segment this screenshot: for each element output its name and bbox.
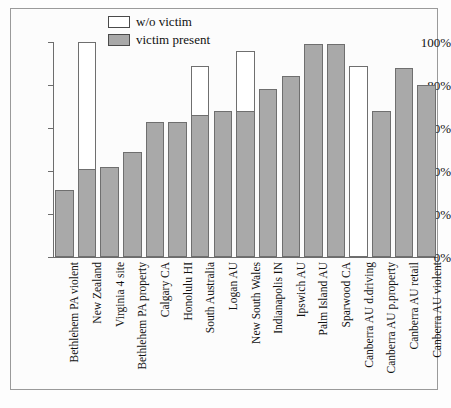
bar-group[interactable] xyxy=(236,42,255,257)
bar-segment-victim-present[interactable] xyxy=(123,152,142,257)
bar-group[interactable] xyxy=(55,42,74,257)
bar-group[interactable] xyxy=(417,42,436,257)
x-axis-label: Canberra AU p.property xyxy=(386,262,398,373)
bar-group[interactable] xyxy=(304,42,323,257)
y-axis-tick xyxy=(48,257,53,258)
x-axis-label: Palm Island AU xyxy=(318,262,330,335)
x-axis-label: New South Wales xyxy=(251,262,263,344)
bar-group[interactable] xyxy=(168,42,187,257)
legend-swatch-white-icon xyxy=(108,16,130,28)
bar-segment-victim-present[interactable] xyxy=(191,115,210,257)
bar-segment-victim-present[interactable] xyxy=(236,111,255,257)
bar-group[interactable] xyxy=(100,42,119,257)
x-axis-label: Canberra AU retail xyxy=(409,262,421,350)
x-axis-label: Bethlehem PA property xyxy=(137,262,149,370)
x-axis-label: Sparwood CA xyxy=(341,262,353,328)
bar-segment-victim-present[interactable] xyxy=(395,68,414,257)
x-axis-label: Canberra AU d.driving xyxy=(364,262,376,368)
x-axis-label: Bethlehem PA violent xyxy=(69,262,81,363)
bar-group[interactable] xyxy=(146,42,165,257)
x-axis-label: Honolulu HI xyxy=(183,262,195,320)
bar-group[interactable] xyxy=(214,42,233,257)
legend-item-w-o-victim: w/o victim xyxy=(108,14,258,29)
bar-segment-victim-present[interactable] xyxy=(372,111,391,257)
bar-segment-victim-present[interactable] xyxy=(100,167,119,257)
x-axis-label: Virginia 4 site xyxy=(115,262,127,327)
bar-segment-victim-present[interactable] xyxy=(304,44,323,257)
bar-segment-victim-present[interactable] xyxy=(282,76,301,257)
bar-segment-victim-present[interactable] xyxy=(259,89,278,257)
x-axis-label: Canberra AU violent xyxy=(432,262,444,358)
x-axis-label: New Zealand xyxy=(92,262,104,324)
bar-segment-victim-present[interactable] xyxy=(214,111,233,257)
legend-label-0: w/o victim xyxy=(136,15,192,28)
bar-segment-wo-victim[interactable] xyxy=(349,66,368,257)
x-axis-label: South Australia xyxy=(205,262,217,333)
bar-group[interactable] xyxy=(372,42,391,257)
bar-group[interactable] xyxy=(259,42,278,257)
x-axis-line xyxy=(53,257,438,258)
bar-segment-victim-present[interactable] xyxy=(168,122,187,257)
bar-segment-victim-present[interactable] xyxy=(327,44,346,257)
x-axis-label: Logan AU xyxy=(228,262,240,310)
bar-group[interactable] xyxy=(191,42,210,257)
x-axis-label: Indianapolis IN xyxy=(273,262,285,334)
bar-group[interactable] xyxy=(78,42,97,257)
bar-segment-victim-present[interactable] xyxy=(55,190,74,257)
bar-group[interactable] xyxy=(349,42,368,257)
figure: w/o victim victim present 0%20%40%60%80%… xyxy=(0,0,451,408)
bar-group[interactable] xyxy=(123,42,142,257)
bar-group[interactable] xyxy=(395,42,414,257)
bar-group[interactable] xyxy=(327,42,346,257)
x-axis-label: Calgary CA xyxy=(160,262,172,317)
bar-segment-victim-present[interactable] xyxy=(146,122,165,257)
plot-area xyxy=(53,42,438,257)
bar-segment-victim-present[interactable] xyxy=(417,85,436,257)
bar-segment-victim-present[interactable] xyxy=(78,169,97,257)
x-axis-label: Ipswich AU xyxy=(296,262,308,317)
bar-group[interactable] xyxy=(282,42,301,257)
